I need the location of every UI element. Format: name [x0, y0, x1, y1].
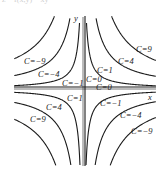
curve-label: C=4 [118, 56, 134, 66]
curve-c-neg9 [14, 16, 54, 59]
curve-c-9 [14, 119, 55, 165]
curve-label: C=0 [96, 82, 112, 92]
curve-label: C=−1 [62, 78, 83, 88]
curve-label: C=4 [46, 102, 62, 112]
curve-c-neg9 [110, 118, 156, 166]
curve-label: C=−9 [24, 56, 46, 66]
curve-label: C=−4 [38, 69, 60, 79]
curve-c-4 [14, 102, 71, 165]
curve-label: C=9 [30, 114, 46, 124]
curve-label: C=9 [136, 44, 152, 54]
axis-label-y: y [73, 13, 78, 23]
curve-labels: C=9C=4C=1C=0C=0C=−9C=−4C=−1C=1C=4C=9C=−1… [24, 13, 153, 136]
curve-label: C=−4 [120, 110, 142, 120]
level-curves-diagram: C=9C=4C=1C=0C=0C=−9C=−4C=−1C=1C=4C=9C=−1… [0, 0, 164, 172]
curve-c-neg4 [14, 18, 70, 75]
axis-label-x: x [147, 92, 152, 102]
hyperbola-curves [14, 16, 156, 166]
curve-label: C=−1 [100, 98, 121, 108]
curve-label: C=−9 [131, 126, 153, 136]
curve-label: C=1 [67, 93, 83, 103]
